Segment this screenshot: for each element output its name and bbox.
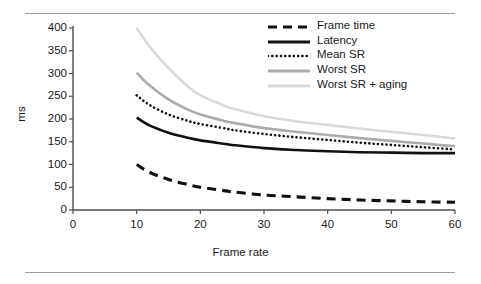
y-tick-label: 200 (33, 113, 67, 124)
x-tick-label: 0 (58, 219, 88, 230)
x-tick-label: 50 (376, 219, 406, 230)
legend-label: Frame time (317, 19, 375, 31)
y-tick-label: 250 (33, 90, 67, 101)
chart-figure: 400350300250200150100500 0102030405060 m… (0, 0, 481, 284)
y-tick-label: 400 (33, 22, 67, 33)
legend-item: Frame time (268, 18, 468, 33)
chart-legend: Frame timeLatencyMean SRWorst SRWorst SR… (268, 18, 468, 91)
x-tick-label: 60 (440, 219, 470, 230)
y-tick-label: 150 (33, 136, 67, 147)
legend-item: Mean SR (268, 47, 468, 62)
legend-item: Worst SR + aging (268, 76, 468, 91)
legend-swatch-icon (268, 19, 310, 31)
x-tick-label: 10 (122, 219, 152, 230)
series-line-latency (137, 118, 455, 154)
legend-item: Worst SR (268, 62, 468, 77)
y-tick-label: 50 (33, 181, 67, 192)
x-tick-label: 30 (249, 219, 279, 230)
y-axis-title: ms (15, 106, 27, 121)
legend-swatch-icon (268, 78, 310, 90)
x-tick-label: 40 (313, 219, 343, 230)
legend-label: Worst SR + aging (317, 78, 407, 90)
legend-label: Latency (317, 34, 357, 46)
legend-label: Worst SR (317, 63, 366, 75)
y-tick-label: 0 (33, 204, 67, 215)
y-tick-label: 300 (33, 68, 67, 79)
x-tick-label: 20 (185, 219, 215, 230)
x-axis-title: Frame rate (0, 246, 481, 258)
y-tick-label: 100 (33, 159, 67, 170)
legend-swatch-icon (268, 48, 310, 60)
legend-item: Latency (268, 33, 468, 48)
legend-swatch-icon (268, 63, 310, 75)
y-tick-label: 350 (33, 45, 67, 56)
series-line-frame-time (137, 165, 455, 203)
legend-swatch-icon (268, 34, 310, 46)
legend-label: Mean SR (317, 48, 365, 60)
